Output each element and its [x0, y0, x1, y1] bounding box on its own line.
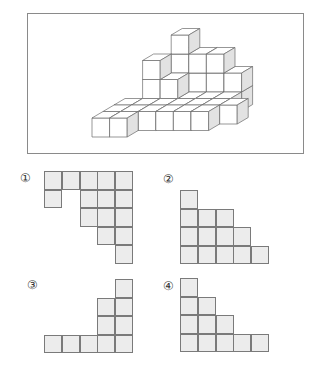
grid-cell	[115, 298, 133, 317]
grid-cell	[180, 297, 198, 316]
grid-cell	[198, 227, 216, 246]
cube	[191, 105, 220, 131]
grid-cell	[180, 334, 198, 353]
grid-cell	[198, 246, 216, 265]
grid-cell	[216, 209, 234, 228]
grid-cell	[216, 227, 234, 246]
grid-cell	[198, 209, 216, 228]
grid-cell	[180, 246, 198, 265]
grid-cell	[115, 245, 133, 264]
grid-cell	[233, 246, 251, 265]
grid-cell	[180, 278, 198, 297]
grid-cell	[180, 209, 198, 228]
grid-cell	[80, 190, 98, 209]
option-label-3[interactable]: ③	[27, 279, 38, 291]
grid-cell	[180, 190, 198, 209]
grid-cell	[115, 190, 133, 209]
option-label-4[interactable]: ④	[163, 280, 174, 292]
grid-cell	[80, 208, 98, 227]
grid-cell	[97, 227, 115, 246]
grid-cell	[233, 334, 251, 353]
grid-cell	[115, 227, 133, 246]
grid-cell	[62, 171, 80, 190]
option-label-2[interactable]: ②	[163, 173, 174, 185]
grid-cell	[62, 335, 80, 354]
grid-cell	[97, 298, 115, 317]
option-label-1[interactable]: ①	[20, 172, 31, 184]
grid-cell	[97, 171, 115, 190]
grid-cell	[198, 297, 216, 316]
grid-cell	[115, 208, 133, 227]
grid-cell	[251, 334, 269, 353]
grid-cell	[44, 171, 62, 190]
grid-cell	[97, 316, 115, 335]
grid-cell	[233, 227, 251, 246]
grid-cell	[180, 315, 198, 334]
grid-cell	[216, 315, 234, 334]
grid-cell	[115, 335, 133, 354]
grid-cell	[80, 335, 98, 354]
grid-cell	[198, 315, 216, 334]
grid-cell	[180, 227, 198, 246]
grid-cell	[97, 335, 115, 354]
cube	[171, 29, 200, 55]
grid-cell	[115, 279, 133, 298]
grid-cell	[216, 246, 234, 265]
cube-structure-figure	[0, 0, 311, 160]
grid-cell	[44, 190, 62, 209]
cube	[206, 48, 235, 74]
cube	[143, 54, 172, 80]
grid-cell	[97, 190, 115, 209]
grid-cell	[216, 334, 234, 353]
grid-cell	[44, 335, 62, 354]
grid-cell	[115, 171, 133, 190]
grid-cell	[251, 246, 269, 265]
cube	[110, 112, 139, 138]
grid-cell	[115, 316, 133, 335]
grid-cell	[80, 171, 98, 190]
grid-cell	[97, 208, 115, 227]
cube	[220, 99, 249, 125]
grid-cell	[198, 334, 216, 353]
